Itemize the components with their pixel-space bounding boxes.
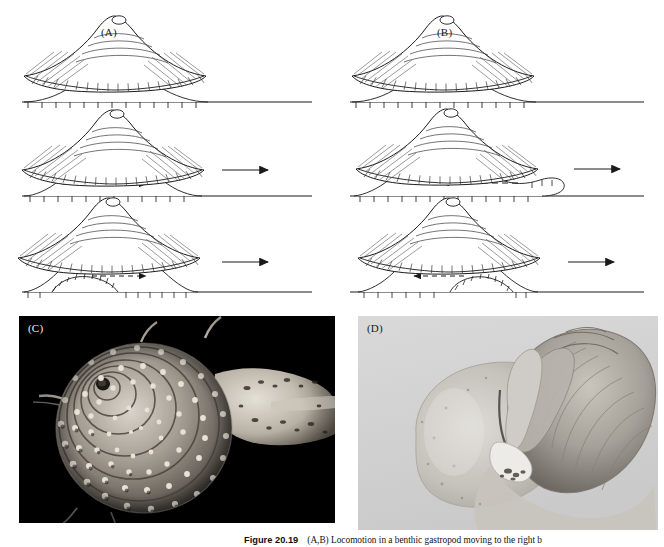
- figure-caption: Figure 20.19(A,B) Locomotion in a benthi…: [244, 535, 664, 546]
- panel-b-row-1: [350, 16, 644, 108]
- panel-c-image: [19, 316, 335, 523]
- panel-b-svg: [332, 14, 664, 304]
- panel-b-row-2: [350, 109, 644, 202]
- figure-number: 20.19: [275, 535, 298, 545]
- figure-caption-text: (A,B) Locomotion in a benthic gastropod …: [307, 535, 542, 545]
- figure-label: Figure: [244, 535, 272, 545]
- panel-d-label: (D): [367, 322, 383, 334]
- panel-a-row-3: [18, 198, 312, 298]
- panel-c-photo: (C): [19, 316, 335, 523]
- panel-d-image: [358, 316, 658, 530]
- panel-a-diagram: [0, 14, 332, 304]
- panel-a-row-1: [22, 16, 312, 108]
- panel-a-label: (A): [101, 26, 117, 38]
- panel-b-row-3: [350, 198, 644, 298]
- panel-a-svg: [0, 14, 332, 304]
- panel-a-row-2: [22, 110, 312, 202]
- panel-b-label: (B): [437, 26, 452, 38]
- figure-page: (A): [0, 0, 664, 547]
- panel-b-diagram: [332, 14, 664, 304]
- panel-c-label: (C): [28, 322, 43, 334]
- panel-d-photo: (D): [358, 316, 658, 530]
